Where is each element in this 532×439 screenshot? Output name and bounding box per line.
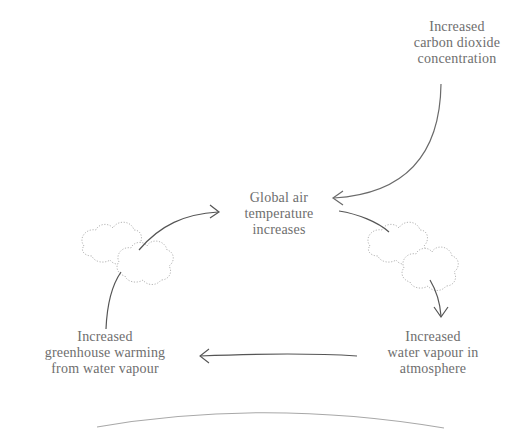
earth-horizon-arc [97,413,444,428]
node-vapour-line-3: atmosphere [369,361,497,377]
node-vapour-line-2: water vapour in [369,345,497,361]
node-co2-line-3: concentration [393,51,521,67]
node-greenhouse-line-1: Increased [20,329,190,345]
node-co2-concentration: Increased carbon dioxide concentration [393,19,521,67]
cloud-right-icon [368,222,458,290]
node-temp-line-1: Global air [219,190,339,206]
diagram-canvas: Increased carbon dioxide concentration G… [0,0,532,439]
node-co2-line-1: Increased [393,19,521,35]
node-greenhouse-line-3: from water vapour [20,361,190,377]
node-global-temperature: Global air temperature increases [219,190,339,238]
node-greenhouse-warming: Increased greenhouse warming from water … [20,329,190,377]
cloud-left-icon [82,222,173,284]
node-temp-line-2: temperature [219,206,339,222]
node-temp-line-3: increases [219,222,339,238]
node-co2-line-2: carbon dioxide [393,35,521,51]
node-water-vapour: Increased water vapour in atmosphere [369,329,497,377]
node-greenhouse-line-2: greenhouse warming [20,345,190,361]
node-vapour-line-1: Increased [369,329,497,345]
arrow-vapour-to-greenhouse [200,349,357,363]
arrow-co2-to-temp [333,84,441,205]
